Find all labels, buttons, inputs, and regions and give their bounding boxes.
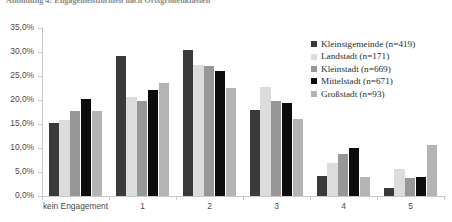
bar [282,103,292,196]
bar [116,56,126,196]
legend-swatch-icon [311,78,317,84]
legend-item-label: Landstadt (n=171) [321,50,389,62]
x-axis-tick-mark [176,196,177,200]
bar [49,123,59,196]
y-axis-tick-label: 30,0% [0,47,34,56]
bar [183,50,193,196]
bar [384,188,394,196]
legend-swatch-icon [311,54,317,60]
bar [260,87,270,196]
legend-item[interactable]: Landstadt (n=171) [311,50,451,62]
figure-container: Abbildung 4: Engagementformen nach Ortsg… [0,0,452,222]
bar [405,178,415,196]
legend-swatch-icon [311,41,317,47]
bar [126,97,136,196]
bar [271,101,281,196]
y-axis-tick-label: 25,0% [0,71,34,80]
bar [159,83,169,196]
bar [349,148,359,196]
bar [137,101,147,196]
bar [193,65,203,196]
legend-item-label: Kleinstgemeinde (n=419) [321,38,415,50]
y-axis-tick-label: 5,0% [0,167,34,176]
bar [204,66,214,196]
legend-item-label: Mittelstadt (n=671) [321,75,393,87]
chart-legend: Kleinstgemeinde (n=419)Landstadt (n=171)… [311,38,451,100]
y-axis-tick-label: 0,0% [0,191,34,200]
legend-item-label: Kleinstadt (n=669) [321,63,391,75]
bar [360,177,370,196]
x-axis-tick-mark [377,196,378,200]
legend-item[interactable]: Großstadt (n=93) [311,88,451,100]
bar [327,163,337,196]
x-axis-tick-mark [243,196,244,200]
bar [293,119,303,196]
x-axis-tick-label: 5 [361,201,452,212]
bar [70,111,80,196]
bar [427,145,437,196]
x-axis-tick-mark [444,196,445,200]
legend-item[interactable]: Kleinstadt (n=669) [311,63,451,75]
bar [250,110,260,196]
bar [92,111,102,196]
x-axis-line [42,196,446,197]
y-axis-tick-label: 15,0% [0,119,34,128]
y-axis-tick-label: 10,0% [0,143,34,152]
bar [226,88,236,196]
x-axis-tick-mark [310,196,311,200]
y-axis-tick-label: 35,0% [0,23,34,32]
figure-title: Abbildung 4: Engagementformen nach Ortsg… [6,0,446,6]
legend-item[interactable]: Kleinstgemeinde (n=419) [311,38,451,50]
legend-swatch-icon [311,91,317,97]
bar [148,90,158,196]
bar [81,99,91,196]
x-axis-tick-mark [42,196,43,200]
y-axis-tick-label: 20,0% [0,95,34,104]
legend-item-label: Großstadt (n=93) [321,88,385,100]
bar [394,169,404,196]
bar [317,176,327,196]
bar [338,154,348,196]
bar [59,120,69,196]
legend-swatch-icon [311,66,317,72]
bar [215,71,225,196]
x-axis-tick-mark [109,196,110,200]
legend-item[interactable]: Mittelstadt (n=671) [311,75,451,87]
bar [416,177,426,196]
